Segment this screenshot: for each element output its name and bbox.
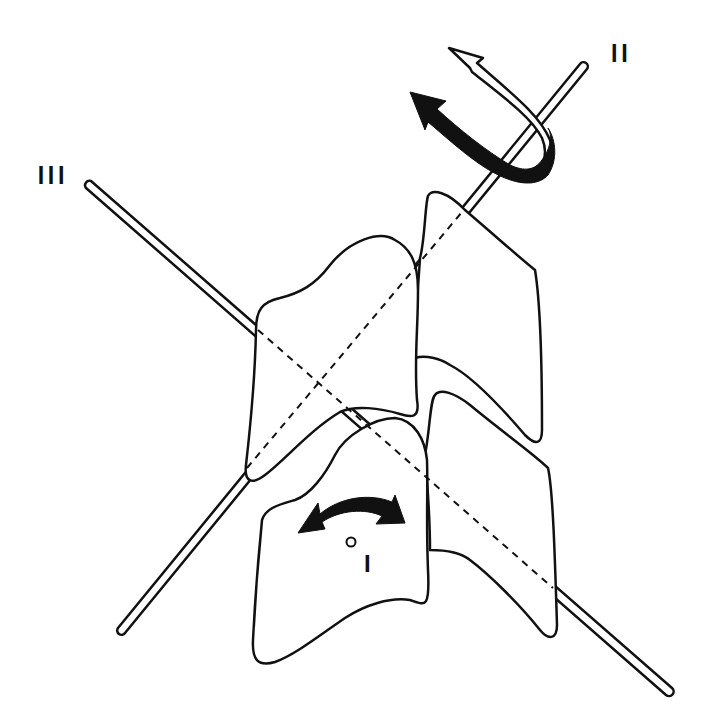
axis-iii-label: III: [38, 162, 68, 188]
diagram-canvas: II III I: [0, 0, 713, 726]
axis-i-marker-icon: [347, 538, 356, 547]
axis-i-label: I: [364, 552, 375, 576]
rotation-arrow-ii-solid-icon: [410, 92, 555, 183]
rotation-arrow-ii-hollow-icon: [449, 48, 552, 172]
axis-ii-label: II: [611, 40, 631, 66]
vertebra-rotation-diagram: [0, 0, 713, 726]
